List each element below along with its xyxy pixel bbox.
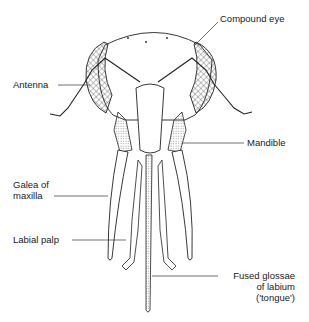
labrum	[136, 84, 164, 153]
label-compound-eye: Compound eye	[220, 13, 284, 24]
left-galea	[108, 150, 128, 260]
label-galea-line2: maxilla	[13, 190, 43, 201]
right-labial-palp	[158, 160, 176, 270]
label-antenna: Antenna	[13, 79, 48, 90]
label-labial-palp: Labial palp	[13, 234, 59, 245]
label-tongue-line3: ('tongue')	[256, 292, 295, 303]
label-mandible: Mandible	[247, 137, 286, 148]
label-galea-line1: Galea of	[13, 179, 49, 190]
tongue	[146, 155, 152, 312]
label-tongue-line2: of labium	[256, 281, 295, 292]
insect-head-diagram: Compound eye Antenna Mandible Galea of m…	[0, 0, 309, 322]
right-galea	[172, 150, 192, 260]
label-tongue-line1: Fused glossae	[233, 270, 295, 281]
left-labial-palp	[122, 160, 142, 270]
